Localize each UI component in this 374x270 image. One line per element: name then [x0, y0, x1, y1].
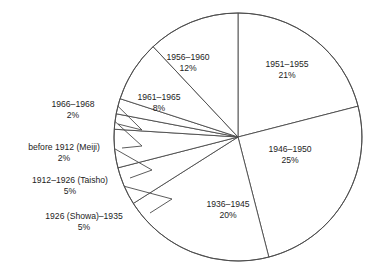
slice-label-name: before 1912 (Meiji) — [28, 142, 100, 152]
slice-label-percent: 20% — [219, 210, 237, 220]
slice-label-name: 1966–1968 — [51, 99, 94, 109]
slice-label-percent: 8% — [153, 103, 166, 113]
slice-label-name: 1936–1945 — [206, 199, 249, 209]
slice-label-name: 1926 (Showa)–1935 — [45, 211, 123, 221]
slice-label-percent: 5% — [78, 222, 91, 232]
slice-label-name: 1961–1965 — [137, 92, 180, 102]
slice-label-percent: 25% — [281, 155, 299, 165]
slice-label-name: 1946–1950 — [268, 144, 311, 154]
slice-label-percent: 12% — [179, 63, 197, 73]
slice-label-percent: 2% — [58, 153, 71, 163]
slice-label-name: 1956–1960 — [166, 52, 209, 62]
slice-label-percent: 21% — [278, 70, 296, 80]
slice-label-name: 1951–1955 — [265, 59, 308, 69]
slice-label-percent: 2% — [67, 110, 80, 120]
pie-slices-group — [114, 13, 362, 261]
slice-label-percent: 5% — [64, 186, 77, 196]
pie-chart: 1951–195521%1946–195025%1936–194520%1926… — [0, 0, 374, 270]
slice-label-name: 1912–1926 (Taisho) — [32, 175, 108, 185]
pie-chart-page: 1951–195521%1946–195025%1936–194520%1926… — [0, 0, 374, 270]
